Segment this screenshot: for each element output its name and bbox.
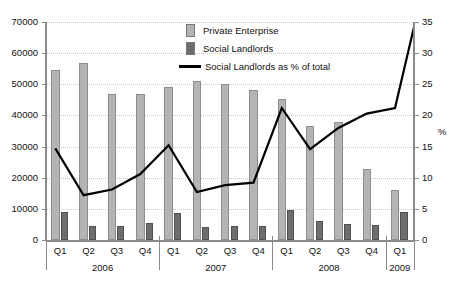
y-axis-right-tick-label: 15 — [422, 142, 452, 151]
bar-column — [329, 22, 357, 240]
y-axis-right-tick-label: 20 — [422, 110, 452, 119]
legend-label: Social Landlords — [203, 43, 273, 54]
x-axis-quarter-label: Q3 — [329, 245, 357, 259]
bar-social-landlords — [259, 226, 266, 240]
y-axis-left-tick — [42, 22, 46, 23]
year-separator — [272, 236, 273, 270]
bar-social-landlords — [202, 227, 209, 240]
y-axis-right-tick-label: 10 — [422, 173, 452, 182]
bar-private-enterprise — [334, 122, 342, 240]
chart-legend: Private EnterpriseSocial LandlordsSocial… — [186, 22, 330, 76]
bar-social-landlords — [89, 226, 96, 240]
bar-column — [357, 22, 385, 240]
y-axis-left-tick — [42, 53, 46, 54]
bar-private-enterprise — [221, 84, 229, 240]
y-axis-left-tick-label: 0 — [0, 235, 38, 244]
y-axis-left-tick-label: 50000 — [0, 79, 38, 88]
bar-social-landlords — [316, 221, 323, 240]
year-separator — [159, 236, 160, 270]
bar-private-enterprise — [306, 126, 314, 240]
legend-item: Social Landlords — [186, 40, 330, 56]
bar-social-landlords — [146, 223, 153, 240]
y-axis-left-tick — [42, 84, 46, 85]
legend-swatch-icon — [186, 42, 195, 55]
y-axis-left-tick-label: 70000 — [0, 17, 38, 26]
x-axis-quarter-label: Q4 — [244, 245, 272, 259]
bar-social-landlords — [400, 212, 407, 240]
chart-container: 010000200003000040000500006000070000 051… — [0, 0, 466, 294]
bar-social-landlords — [231, 226, 238, 240]
legend-item: Social Landlords as % of total — [186, 58, 330, 74]
bar-private-enterprise — [249, 90, 257, 240]
y-axis-right-tick — [415, 115, 419, 116]
x-axis-quarter-label: Q3 — [216, 245, 244, 259]
bar-private-enterprise — [363, 169, 371, 240]
bar-private-enterprise — [79, 63, 87, 241]
y-axis-right-tick-label: 30 — [422, 48, 452, 57]
bar-social-landlords — [174, 213, 181, 240]
x-axis-quarter-label: Q2 — [301, 245, 329, 259]
legend-line-icon — [179, 65, 201, 68]
year-separator — [46, 236, 47, 270]
bar-private-enterprise — [164, 87, 172, 240]
bar-private-enterprise — [391, 190, 399, 240]
y-axis-right-tick-label: 35 — [422, 17, 452, 26]
bar-private-enterprise — [278, 99, 286, 240]
y-axis-right-tick — [415, 53, 419, 54]
bar-column — [386, 22, 414, 240]
x-axis-year-label: 2006 — [46, 262, 159, 273]
bar-column — [159, 22, 187, 240]
y-axis-right-tick — [415, 147, 419, 148]
y-axis-right-tick — [415, 178, 419, 179]
y-axis-left-tick — [42, 115, 46, 116]
y-axis-right-tick-label: 25 — [422, 79, 452, 88]
y-axis-right-tick — [415, 240, 419, 241]
bar-column — [74, 22, 102, 240]
x-axis-year-label: 2008 — [272, 262, 385, 273]
legend-swatch-icon — [186, 24, 195, 37]
y-axis-left-tick-label: 20000 — [0, 173, 38, 182]
x-axis-year-labels: 2006200720082009 — [46, 262, 414, 278]
y-axis-right-tick-label: 5 — [422, 204, 452, 213]
y-axis-left-tick-label: 10000 — [0, 204, 38, 213]
bar-private-enterprise — [136, 94, 144, 240]
bar-column — [103, 22, 131, 240]
bar-private-enterprise — [108, 94, 116, 240]
legend-label: Social Landlords as % of total — [205, 61, 330, 72]
y-axis-left-tick-label: 30000 — [0, 142, 38, 151]
bar-private-enterprise — [193, 81, 201, 240]
y-axis-left-tick-label: 60000 — [0, 48, 38, 57]
year-separator — [414, 236, 415, 270]
legend-item: Private Enterprise — [186, 22, 330, 38]
bar-column — [46, 22, 74, 240]
x-axis-year-label: 2007 — [159, 262, 272, 273]
x-axis-quarter-label: Q2 — [188, 245, 216, 259]
y-axis-right-tick — [415, 22, 419, 23]
y-axis-left-tick — [42, 209, 46, 210]
y-axis-left-tick — [42, 178, 46, 179]
y-axis-right-label: % — [438, 126, 446, 137]
x-axis-quarter-label: Q3 — [103, 245, 131, 259]
y-axis-left-tick — [42, 147, 46, 148]
y-axis-left-tick-label: 40000 — [0, 110, 38, 119]
x-axis-quarter-label: Q1 — [159, 245, 187, 259]
bar-column — [131, 22, 159, 240]
y-axis-right-tick-label: 0 — [422, 235, 452, 244]
y-axis-right-tick — [415, 209, 419, 210]
year-separator — [386, 236, 387, 270]
x-axis-quarter-label: Q2 — [74, 245, 102, 259]
bar-social-landlords — [117, 226, 124, 240]
bar-social-landlords — [287, 210, 294, 240]
x-axis-quarter-label: Q1 — [273, 245, 301, 259]
bar-social-landlords — [61, 212, 68, 240]
bar-private-enterprise — [51, 70, 59, 240]
x-axis-year-label: 2009 — [386, 262, 414, 273]
bar-social-landlords — [344, 224, 351, 241]
y-axis-right-tick — [415, 84, 419, 85]
x-axis-quarter-label: Q4 — [357, 245, 385, 259]
x-axis-quarter-label: Q4 — [131, 245, 159, 259]
x-axis — [46, 240, 414, 242]
bar-social-landlords — [372, 225, 379, 240]
x-axis-quarter-labels: Q1Q2Q3Q4Q1Q2Q3Q4Q1Q2Q3Q4Q1 — [46, 245, 414, 259]
x-axis-quarter-label: Q1 — [386, 245, 414, 259]
